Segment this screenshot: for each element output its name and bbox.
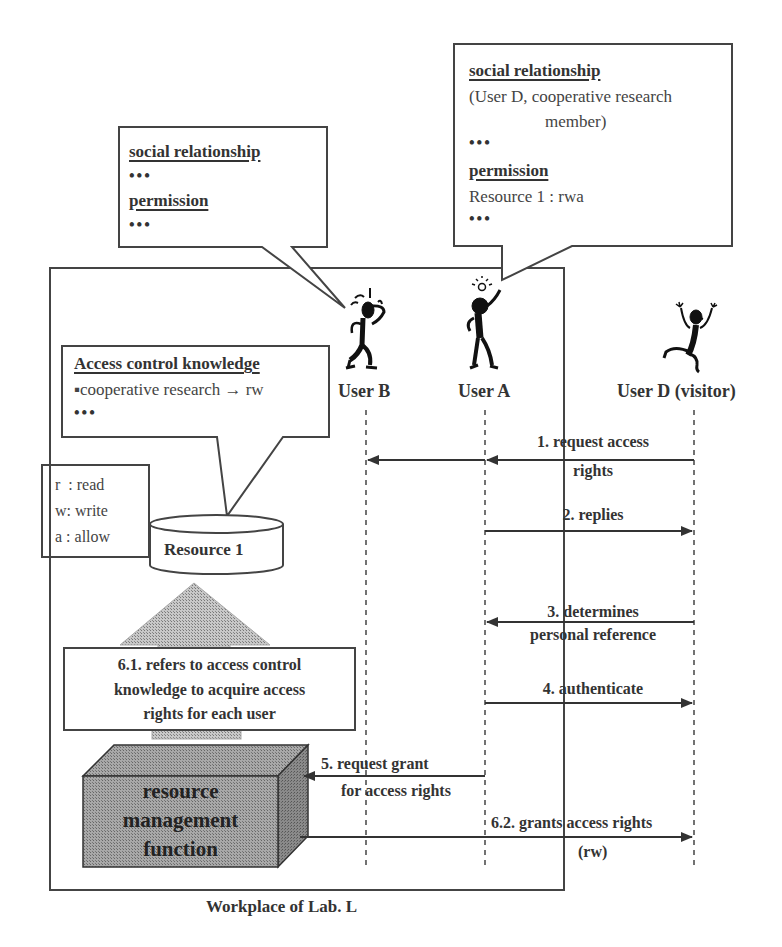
actor-label-user-a: User A (458, 382, 510, 400)
bubble-b-permission-heading: permission (129, 192, 208, 209)
access-control-rule: ▪cooperative research → rw (74, 381, 264, 398)
access-control-heading: Access control knowledge (74, 355, 260, 372)
msg-1-line1: 1. request access (498, 434, 688, 450)
bubble-b-permission-ellipsis: ••• (129, 217, 152, 233)
msg-4-label: 4. authenticate (498, 681, 688, 697)
msg-3-line2: personal reference (498, 627, 688, 643)
block-arrow-up-icon (120, 583, 270, 655)
legend-write: w: write (55, 503, 108, 519)
workplace-title: Workplace of Lab. L (206, 898, 357, 915)
legend-read: r : read (55, 477, 104, 493)
bubble-a-social-line1: (User D, cooperative research (469, 88, 672, 105)
rmf-line1: resource (83, 781, 278, 802)
rmf-line3: function (83, 839, 278, 860)
bubble-a-permission-heading: permission (469, 162, 548, 179)
step-6-1-line3: rights for each user (64, 706, 355, 722)
user-a-figure-icon (468, 276, 500, 368)
bubble-a-social-line2: member) (545, 113, 606, 130)
bubble-a-permission-ellipsis: ••• (469, 211, 492, 227)
msg-3-line1: 3. determines (498, 604, 688, 620)
bubble-a-permission-value: Resource 1 : rwa (469, 188, 584, 205)
msg-2-label: 2. replies (498, 507, 688, 523)
legend-allow: a : allow (55, 529, 110, 545)
bubble-a-social-ellipsis: ••• (469, 135, 492, 151)
step-6-1-line2: knowledge to acquire access (64, 682, 355, 698)
bubble-a-social-heading: social relationship (469, 62, 600, 79)
msg-5-line1: 5. request grant (321, 756, 429, 772)
actor-label-user-b: User B (338, 382, 390, 400)
actor-label-user-d: User D (visitor) (617, 382, 736, 400)
msg-1-line2: rights (498, 463, 688, 479)
bubble-b-social-ellipsis: ••• (129, 168, 152, 184)
step-6-1-line1: 6.1. refers to access control (64, 657, 355, 673)
msg-6-2-line2: (rw) (578, 844, 607, 860)
user-b-figure-icon (346, 288, 384, 368)
msg-6-2-line1: 6.2. grants access rights (491, 815, 652, 831)
access-control-ellipsis: ••• (74, 405, 97, 421)
resource-label: Resource 1 (164, 541, 243, 558)
bubble-b-social-heading: social relationship (129, 143, 260, 160)
msg-5-line2: for access rights (341, 783, 451, 799)
user-d-figure-icon (664, 302, 717, 372)
rmf-line2: management (83, 810, 278, 831)
